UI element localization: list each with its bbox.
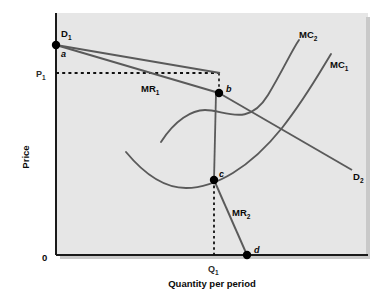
quantity-axis-tick-label: Q1 [208,264,219,276]
chart-canvas: D1 MR1 MR2 MC2 MC1 D2 a b c d P1 Q1 0 [0,0,389,302]
price-axis-tick-label: P1 [36,69,46,81]
point-a-label: a [61,49,66,59]
plot-area-shadow [366,17,370,259]
point-d-label: d [254,245,260,255]
y-axis-title: Price [20,145,31,168]
origin-label: 0 [42,252,47,263]
point-c-marker [210,176,218,184]
point-c-label: c [219,169,224,179]
kinked-demand-curve-figure: D1 MR1 MR2 MC2 MC1 D2 a b c d P1 Q1 0 [0,0,389,302]
point-b-marker [215,89,223,97]
point-a-marker [52,41,60,49]
plot-area-background [56,13,368,255]
point-b-label: b [226,84,232,94]
point-d-marker [243,251,251,259]
x-axis-title: Quantity per period [168,278,256,289]
